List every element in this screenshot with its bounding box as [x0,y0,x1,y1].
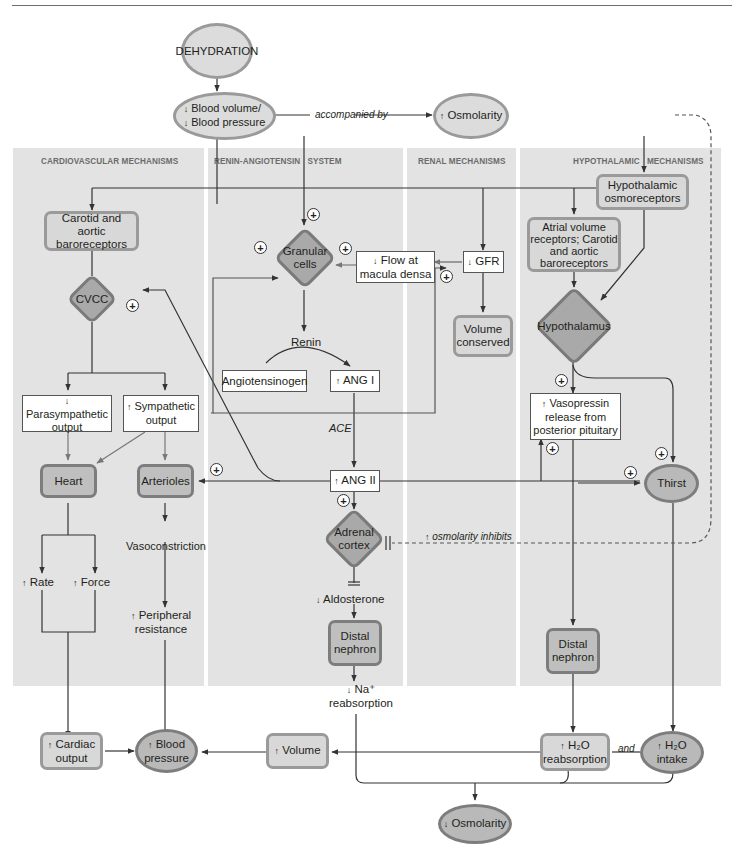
node-adrenal-cortex: Adrenalcortex [324,508,384,570]
up-arrow-icon: ↑ [336,376,341,386]
node-heart: Heart [40,464,97,498]
node-renin: Renin [291,336,321,349]
node-sympathetic-output: ↑ Sympatheticoutput [123,395,199,432]
node-h2o-intake: ↑ H₂Ointake [640,731,704,774]
plus-icon: + [126,299,139,312]
node-vasopressin-release: ↑ Vasopressin release from posterior pit… [530,393,621,440]
node-blood-volume-pressure: ↓ Blood volume/ ↓ Blood pressure [173,92,276,140]
down-arrow-icon: ↓ [65,396,70,406]
plus-icon: + [546,442,559,455]
node-ang-i: ↑ ANG I [330,370,380,392]
up-arrow-icon: ↑ [560,741,565,751]
plus-icon: + [210,463,223,476]
node-cvcc: CVCC [67,274,117,324]
node-volume-conserved: Volumeconserved [453,315,513,357]
node-atrial-volume-receptors: Atrial volume receptors; Carotid and aor… [527,217,621,272]
node-ang-ii: ↑ ANG II [330,470,380,492]
up-arrow-icon: ↑ [657,741,662,751]
plus-icon: + [254,241,267,254]
node-parasympathetic-output: ↓ Parasympatheticoutput [22,395,112,432]
node-h2o-reabsorption: ↑ H₂Oreabsorption [540,733,610,771]
plus-icon: + [624,466,637,479]
down-arrow-icon: ↓ [468,257,473,267]
plus-icon: + [655,447,668,460]
node-carotid-aortic-baroreceptors: Carotid and aorticbaroreceptors [44,211,139,251]
node-dehydration-label: DEHYDRATION [176,45,259,58]
up-arrow-icon: ↑ [440,111,445,121]
down-arrow-icon: ↓ [316,595,321,605]
node-thirst: Thirst [644,464,699,503]
plus-icon: + [337,494,350,507]
node-cardiac-output: ↑ Cardiacoutput [40,732,103,770]
up-arrow-icon: ↑ [542,399,547,409]
down-arrow-icon: ↓ [184,118,189,128]
up-arrow-icon: ↑ [425,532,430,542]
node-peripheral-resistance: ↑ Peripheral resistance [131,609,191,636]
node-dehydration: DEHYDRATION [181,23,253,79]
node-force: ↑ Force [73,576,110,590]
node-vasoconstriction: Vasoconstriction [126,540,206,553]
up-arrow-icon: ↑ [48,740,53,750]
label-and: and [618,742,635,755]
node-arterioles: Arterioles [137,464,194,498]
node-granular-cells: Granularcells [275,227,335,289]
up-arrow-icon: ↑ [127,402,132,412]
node-aldosterone: ↓ Aldosterone [316,593,384,607]
down-arrow-icon: ↓ [184,104,189,114]
down-arrow-icon: ↓ [444,819,449,829]
plus-icon: + [339,242,352,255]
plus-icon: + [555,374,568,387]
node-distal-nephron-right: Distalnephron [546,628,600,674]
node-angiotensinogen: Angiotensinogen [222,370,307,392]
up-arrow-icon: ↑ [274,746,279,756]
plus-icon: + [307,208,320,221]
node-osmolarity-up: ↑ Osmolarity [433,93,509,139]
label-osmolarity-inhibits: ↑ osmolarity inhibits [425,530,512,544]
node-osmolarity-down: ↓ Osmolarity [438,804,512,844]
label-ace: ACE [329,422,352,435]
node-flow-macula-densa: ↓ Flow atmacula densa [356,251,435,283]
node-volume-up: ↑ Volume [266,733,329,769]
up-arrow-icon: ↑ [148,740,153,750]
node-rate: ↑ Rate [22,576,54,590]
node-blood-pressure: ↑ Bloodpressure [135,729,198,773]
node-hypothalamic-osmoreceptors: Hypothalamicosmoreceptors [596,174,689,210]
node-na-reabsorption: ↓ Na⁺ reabsorption [329,683,393,710]
up-arrow-icon: ↑ [131,611,136,621]
node-hypothalamus: Hypothalamus [536,287,612,365]
dehydration-flowchart: CARDIOVASCULAR MECHANISMS RENIN-ANGIOTEN… [0,0,734,863]
up-arrow-icon: ↑ [22,578,27,588]
up-arrow-icon: ↑ [334,476,339,486]
node-gfr: ↓ GFR [463,251,504,273]
label-accompanied-by: accompanied by [315,108,388,121]
down-arrow-icon: ↓ [373,256,378,266]
node-distal-nephron-left: Distalnephron [328,620,382,666]
up-arrow-icon: ↑ [73,578,78,588]
plus-icon: + [440,270,453,283]
down-arrow-icon: ↓ [347,685,352,695]
